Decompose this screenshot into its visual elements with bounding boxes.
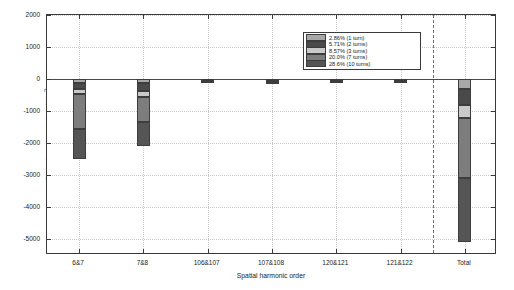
- bar-segment[interactable]: [458, 89, 471, 106]
- x-tick-mark: [336, 249, 337, 253]
- bar-stack[interactable]: [201, 79, 214, 83]
- x-tick-label: 6&7: [72, 259, 84, 266]
- y-tick-mark-right: [491, 47, 495, 48]
- legend-label: 28.6% (10 turns): [329, 61, 370, 67]
- y-tick-mark: [47, 15, 51, 16]
- legend-label: 2.86% (1 turn): [329, 35, 364, 41]
- gridline-horizontal: [47, 47, 495, 48]
- x-tick-mark: [79, 249, 80, 253]
- x-tick-label: 106&107: [194, 259, 220, 266]
- x-tick-label: 7&8: [137, 259, 149, 266]
- y-tick-mark-right: [491, 175, 495, 176]
- gridline-vertical: [208, 15, 209, 253]
- y-tick-label: 2000: [26, 11, 40, 18]
- bar-segment[interactable]: [137, 97, 150, 121]
- y-tick-label: -2000: [23, 139, 40, 146]
- bar-segment[interactable]: [73, 129, 86, 159]
- bar-stack[interactable]: [137, 79, 150, 146]
- y-tick-mark-right: [491, 239, 495, 240]
- bar-stack[interactable]: [394, 79, 407, 83]
- x-tick-mark-top: [208, 15, 209, 19]
- y-tick-mark-right: [491, 79, 495, 80]
- y-tick-mark: [47, 143, 51, 144]
- legend-label: 8.57% (3 turns): [329, 48, 367, 54]
- y-tick-label: -5000: [23, 235, 40, 242]
- legend: 2.86% (1 turn)5.71% (2 turns)8.57% (3 tu…: [303, 32, 421, 70]
- y-tick-mark: [47, 47, 51, 48]
- y-tick-label: 0: [36, 75, 40, 82]
- legend-swatch: [306, 60, 326, 67]
- bar-stack[interactable]: [266, 79, 279, 83]
- bar-segment[interactable]: [266, 82, 279, 84]
- x-tick-mark-top: [143, 15, 144, 19]
- x-tick-label: 120&121: [322, 259, 348, 266]
- bar-segment[interactable]: [73, 94, 86, 128]
- chart-figure: Radial force density, fr, stat [N/m2] 2.…: [0, 0, 514, 290]
- x-tick-mark: [272, 249, 273, 253]
- bar-segment[interactable]: [137, 83, 150, 91]
- x-axis-title: Spatial harmonic order: [46, 272, 496, 279]
- bar-segment[interactable]: [458, 118, 471, 178]
- y-tick-label: -4000: [23, 203, 40, 210]
- gridline-horizontal: [47, 207, 495, 208]
- y-tick-mark: [47, 79, 51, 80]
- y-tick-mark: [47, 111, 51, 112]
- gridline-horizontal: [47, 15, 495, 16]
- category-separator: [433, 15, 434, 253]
- bar-segment[interactable]: [137, 122, 150, 147]
- bar-segment[interactable]: [458, 105, 471, 118]
- y-tick-mark: [47, 239, 51, 240]
- gridline-horizontal: [47, 175, 495, 176]
- legend-label: 20.0% (7 turns): [329, 54, 367, 60]
- y-tick-mark-right: [491, 15, 495, 16]
- gridline-vertical: [272, 15, 273, 253]
- x-tick-label: Total: [457, 259, 471, 266]
- legend-item: 28.6% (10 turns): [306, 61, 418, 67]
- x-tick-mark-top: [336, 15, 337, 19]
- y-tick-mark-right: [491, 207, 495, 208]
- x-tick-mark: [143, 249, 144, 253]
- bar-segment[interactable]: [458, 178, 471, 242]
- y-tick-label: 1000: [26, 43, 40, 50]
- y-tick-label: -1000: [23, 107, 40, 114]
- bar-segment[interactable]: [201, 81, 214, 83]
- bar-segment[interactable]: [330, 81, 343, 83]
- gridline-horizontal: [47, 111, 495, 112]
- x-tick-label: 121&122: [387, 259, 413, 266]
- x-tick-mark: [208, 249, 209, 253]
- bar-stack[interactable]: [458, 79, 471, 242]
- x-tick-mark: [401, 249, 402, 253]
- x-tick-mark-top: [272, 15, 273, 19]
- legend-label: 5.71% (2 turns): [329, 41, 367, 47]
- y-tick-label: -3000: [23, 171, 40, 178]
- x-tick-mark: [465, 249, 466, 253]
- y-tick-mark-right: [491, 143, 495, 144]
- x-tick-mark-top: [401, 15, 402, 19]
- bar-segment[interactable]: [458, 79, 471, 89]
- bar-stack[interactable]: [330, 79, 343, 82]
- x-tick-mark-top: [465, 15, 466, 19]
- x-tick-label: 107&108: [258, 259, 284, 266]
- x-tick-mark-top: [79, 15, 80, 19]
- bar-segment[interactable]: [394, 81, 407, 83]
- y-tick-mark-right: [491, 111, 495, 112]
- y-tick-mark: [47, 175, 51, 176]
- bar-stack[interactable]: [73, 79, 86, 159]
- y-tick-mark: [47, 207, 51, 208]
- gridline-horizontal: [47, 239, 495, 240]
- plot-area: 2.86% (1 turn)5.71% (2 turns)8.57% (3 tu…: [46, 14, 496, 254]
- gridline-horizontal: [47, 143, 495, 144]
